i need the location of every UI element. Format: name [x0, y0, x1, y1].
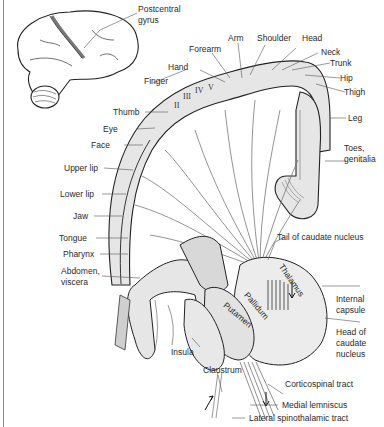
- homunculus-illustration: [0, 0, 384, 427]
- label-head: Head: [302, 33, 322, 43]
- label-internal-capsule: Internal: [336, 294, 364, 304]
- label-neck: Neck: [321, 47, 340, 57]
- label-jaw: Jaw: [73, 211, 88, 221]
- label-forearm: Forearm: [189, 44, 221, 54]
- label-face: Face: [91, 140, 110, 150]
- label-hand: Hand: [168, 62, 188, 72]
- label-hip: Hip: [340, 73, 353, 83]
- label-head-of-caudate-2: caudate: [336, 338, 366, 348]
- label-corticospinal-tract: Corticospinal tract: [285, 379, 353, 389]
- label-lateral-spinothalamic-tract: Lateral spinothalamic tract: [249, 413, 348, 423]
- label-postcentral-gyrus: Postcentral: [138, 4, 181, 14]
- figure-canvas: Postcentral gyrus Forearm Arm Shoulder H…: [0, 0, 384, 427]
- label-tongue: Tongue: [59, 233, 87, 243]
- label-thigh: Thigh: [344, 87, 365, 97]
- label-tail-of-caudate-nucleus: Tail of caudate nucleus: [277, 232, 363, 242]
- label-shoulder: Shoulder: [257, 33, 291, 43]
- label-leg: Leg: [348, 113, 362, 123]
- brain-inset-icon: [18, 11, 139, 108]
- finger-numeral-v: V: [208, 83, 214, 93]
- label-thumb: Thumb: [113, 107, 139, 117]
- label-medial-lemniscus: Medial lemniscus: [282, 400, 347, 410]
- label-head-of-caudate: Head of: [336, 327, 366, 337]
- finger-numeral-ii: II: [174, 101, 179, 111]
- label-insula: Insula: [171, 347, 194, 357]
- label-trunk: Trunk: [330, 58, 351, 68]
- label-postcentral-gyrus-2: gyrus: [138, 15, 159, 25]
- label-finger: Finger: [144, 76, 168, 86]
- label-genitalia: genitalia: [344, 154, 376, 164]
- finger-numeral-iii: III: [183, 92, 191, 102]
- label-arm: Arm: [228, 33, 244, 43]
- label-viscera: viscera: [61, 277, 88, 287]
- label-claustrum: Claustrum: [203, 365, 242, 375]
- label-pharynx: Pharynx: [63, 249, 94, 259]
- label-toes: Toes,: [344, 143, 364, 153]
- label-abdomen: Abdomen,: [61, 266, 100, 276]
- label-internal-capsule-2: capsule: [336, 305, 365, 315]
- label-lower-lip: Lower lip: [60, 189, 94, 199]
- label-eye: Eye: [103, 124, 118, 134]
- label-upper-lip: Upper lip: [64, 163, 98, 173]
- label-head-of-caudate-3: nucleus: [336, 349, 365, 359]
- finger-numeral-iv: IV: [195, 86, 203, 96]
